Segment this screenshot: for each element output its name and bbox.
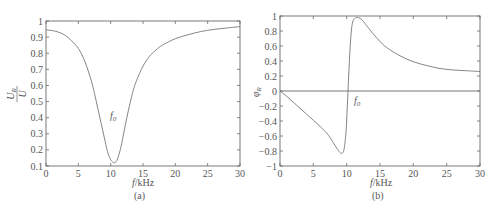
y-tick-label: 0.7 [31,64,44,75]
x-axis-ticks-b: 051015202530 [278,16,486,179]
x-tick-label: 30 [475,168,485,179]
y-tick-label: 0.6 [265,41,278,52]
y-tick-label: −0.4 [259,116,277,127]
y-tick-label: 0.2 [31,144,44,155]
amplitude-curve [46,27,240,163]
x-tick-label: 30 [235,168,245,179]
y-tick-label: 0.4 [31,112,44,123]
x-tick-label: 20 [170,168,180,179]
y-tick-label: −0.2 [259,101,277,112]
y-tick-label: 0.1 [31,161,44,172]
y-tick-label: 1 [272,11,277,22]
chart-panel-a: 051015202530 0.10.20.30.40.50.60.70.80.9… [5,16,245,203]
x-tick-label: 0 [44,168,49,179]
panel-label-b: (b) [372,190,384,202]
y-axis-label-a: UR U [5,86,28,102]
y-tick-label: 0.5 [31,96,44,107]
y-tick-label: 0.9 [31,32,44,43]
x-tick-label: 5 [76,168,81,179]
y-tick-label: 1 [38,16,43,27]
x-tick-label: 10 [106,168,116,179]
y-tick-label: 0.4 [265,56,278,67]
y-tick-label: 0.8 [265,26,278,37]
y-tick-label: −0.6 [259,131,277,142]
y-tick-label: 0.2 [265,71,278,82]
x-tick-label: 25 [203,168,213,179]
y-tick-label: 0.6 [31,80,44,91]
x-tick-label: 5 [311,168,316,179]
x-axis-label-a: f/kHz [132,177,155,188]
f0-annotation-b: f0 [354,95,361,108]
y-tick-label: −1 [266,161,277,172]
x-tick-label: 0 [278,168,283,179]
x-tick-label: 10 [342,168,352,179]
y-tick-label: 0.8 [31,48,44,59]
y-tick-label: 0.3 [31,128,44,139]
x-axis-label-b: f/kHz [370,177,393,188]
y-tick-label: 0 [272,86,277,97]
x-tick-label: 25 [442,168,452,179]
svg-text:φR: φR [250,86,263,97]
figure: 051015202530 0.10.20.30.40.50.60.70.80.9… [0,0,496,208]
y-tick-label: −0.8 [259,146,277,157]
svg-text:U: U [17,90,28,98]
plot-frame-a [46,21,240,166]
x-tick-label: 20 [408,168,418,179]
f0-annotation-a: f0 [110,110,117,123]
y-axis-ticks-a: 0.10.20.30.40.50.60.70.80.91 [31,16,241,172]
x-axis-ticks-a: 051015202530 [44,21,246,179]
panel-label-a: (a) [134,190,145,202]
chart-panel-b: 051015202530 −1−0.8−0.6−0.4−0.200.20.40.… [250,11,485,203]
phase-curve [280,18,480,154]
y-axis-label-b: φR [250,86,263,97]
